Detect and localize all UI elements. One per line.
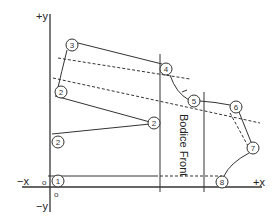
point-8: 8 (216, 176, 228, 188)
edge-6-7 (239, 112, 251, 142)
y-positive-label: +y (36, 10, 48, 22)
edge-3-4 (78, 43, 162, 64)
point-4-label: 4 (164, 65, 169, 74)
point-4: 4 (160, 63, 172, 75)
point-3-label: 3 (70, 41, 75, 50)
point-6-label: 6 (234, 103, 239, 112)
point-2-middle: 2 (148, 117, 160, 129)
notch-mark (182, 90, 187, 92)
y-negative-label: −y (36, 200, 48, 212)
point-5: 5 (188, 95, 200, 107)
dashed-guide-lower (53, 78, 260, 123)
x-negative-label: −x (17, 175, 29, 187)
point-2-lower: 2 (52, 136, 64, 148)
edge-4-5-curve (170, 75, 189, 100)
point-1: 1 (52, 175, 64, 187)
point-1-label: 1 (56, 177, 61, 186)
point-5-label: 5 (192, 97, 197, 106)
origin-below-label: o (54, 190, 59, 199)
point-2-lower-label: 2 (56, 138, 61, 147)
point-3: 3 (66, 39, 78, 51)
bodice-front-diagram: Bodice Front +y −y −x +x o o 1 2 2 2 3 4… (0, 0, 278, 224)
point-7-label: 7 (251, 144, 256, 153)
point-2-middle-label: 2 (152, 119, 157, 128)
point-6: 6 (230, 101, 242, 113)
point-2-upper: 2 (55, 86, 67, 98)
edge-2-2mid (55, 96, 150, 122)
point-7: 7 (247, 142, 259, 154)
x-positive-label: +x (253, 176, 265, 188)
edge-7-8-curve (224, 153, 249, 176)
edge-2mid-2low (52, 124, 150, 134)
point-2-upper-label: 2 (59, 88, 64, 97)
point-8-label: 8 (220, 178, 225, 187)
origin-left-label: o (42, 178, 47, 187)
bodice-front-label: Bodice Front (178, 114, 190, 176)
